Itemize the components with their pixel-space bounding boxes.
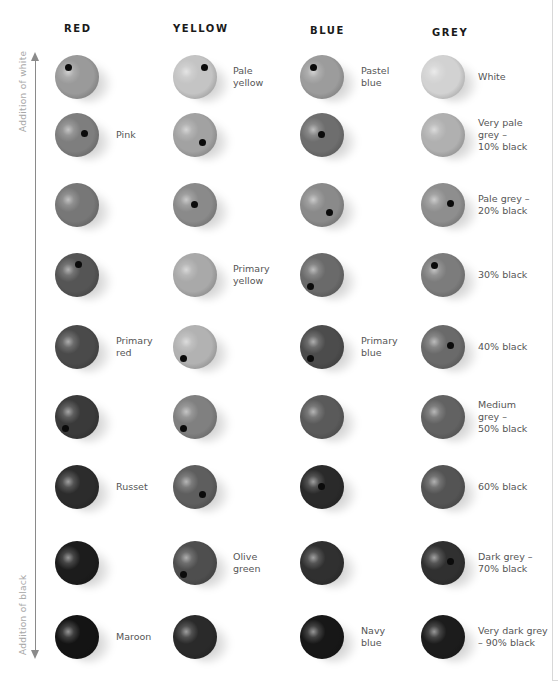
bead-yellow-6 xyxy=(173,395,217,439)
arrow-down-icon xyxy=(31,650,39,659)
bead-sphere xyxy=(173,113,217,157)
bead-label-red-5: Primary red xyxy=(116,335,153,359)
bead-red-6 xyxy=(55,395,99,439)
bead-hole xyxy=(310,64,317,71)
bead-sphere xyxy=(55,465,99,509)
bead-hole xyxy=(447,200,454,207)
bead-label-grey-9: Very dark grey – 90% black xyxy=(478,625,548,649)
bead-blue-2 xyxy=(300,113,344,157)
bead-hole xyxy=(65,64,72,71)
bead-red-8 xyxy=(55,541,99,585)
bead-sphere xyxy=(55,183,99,227)
bead-blue-1 xyxy=(300,55,344,99)
bead-sphere xyxy=(421,465,465,509)
bead-yellow-4 xyxy=(173,253,217,297)
bead-hole xyxy=(180,425,187,432)
bead-label-grey-1: White xyxy=(478,71,506,83)
bead-yellow-1 xyxy=(173,55,217,99)
bead-hole xyxy=(447,342,454,349)
bead-sphere xyxy=(421,395,465,439)
bead-sphere xyxy=(300,55,344,99)
bead-sphere xyxy=(55,55,99,99)
bead-sphere xyxy=(55,615,99,659)
bead-hole xyxy=(199,491,206,498)
bead-sphere xyxy=(421,253,465,297)
bead-yellow-5 xyxy=(173,325,217,369)
bead-sphere xyxy=(173,325,217,369)
bead-sphere xyxy=(300,395,344,439)
bead-sphere xyxy=(421,183,465,227)
bead-label-yellow-4: Primary yellow xyxy=(233,263,270,287)
bead-label-grey-2: Very pale grey – 10% black xyxy=(478,117,527,153)
column-header-yellow: YELLOW xyxy=(173,23,229,34)
bead-label-grey-8: Dark grey – 70% black xyxy=(478,551,533,575)
bead-sphere xyxy=(173,253,217,297)
bead-red-9 xyxy=(55,615,99,659)
bead-red-7 xyxy=(55,465,99,509)
bead-hole xyxy=(431,262,438,269)
bead-hole xyxy=(447,558,454,565)
bead-red-5 xyxy=(55,325,99,369)
bead-sphere xyxy=(421,541,465,585)
bead-yellow-8 xyxy=(173,541,217,585)
bead-label-grey-7: 60% black xyxy=(478,481,527,493)
bead-label-blue-5: Primary blue xyxy=(361,335,398,359)
bead-sphere xyxy=(300,183,344,227)
bead-hole xyxy=(307,355,314,362)
bead-label-grey-6: Medium grey – 50% black xyxy=(478,399,527,435)
bead-hole xyxy=(62,425,69,432)
bead-red-4 xyxy=(55,253,99,297)
vertical-axis-line xyxy=(35,58,36,654)
bead-grey-7 xyxy=(421,465,465,509)
bead-label-yellow-1: Pale yellow xyxy=(233,65,263,89)
bead-sphere xyxy=(421,113,465,157)
bead-sphere xyxy=(300,325,344,369)
bead-yellow-9 xyxy=(173,615,217,659)
bead-sphere xyxy=(173,615,217,659)
bead-sphere xyxy=(300,615,344,659)
bead-sphere xyxy=(55,113,99,157)
bead-sphere xyxy=(421,55,465,99)
bead-label-red-7: Russet xyxy=(116,481,148,493)
bead-hole xyxy=(191,201,198,208)
bead-grey-5 xyxy=(421,325,465,369)
bead-red-2 xyxy=(55,113,99,157)
page-edge-corner xyxy=(552,680,558,681)
bead-yellow-7 xyxy=(173,465,217,509)
bead-grey-1 xyxy=(421,55,465,99)
bead-blue-4 xyxy=(300,253,344,297)
axis-label-addition-of-black: Addition of black xyxy=(18,574,28,655)
bead-blue-5 xyxy=(300,325,344,369)
bead-hole xyxy=(180,355,187,362)
bead-label-yellow-8: Olive green xyxy=(233,551,260,575)
bead-label-grey-3: Pale grey – 20% black xyxy=(478,193,530,217)
column-header-red: RED xyxy=(64,23,92,34)
bead-label-red-9: Maroon xyxy=(116,631,151,643)
bead-label-grey-4: 30% black xyxy=(478,269,527,281)
bead-label-blue-9: Navy blue xyxy=(361,625,385,649)
bead-hole xyxy=(201,64,208,71)
bead-sphere xyxy=(55,541,99,585)
bead-sphere xyxy=(173,465,217,509)
bead-red-3 xyxy=(55,183,99,227)
bead-sphere xyxy=(173,55,217,99)
bead-grey-2 xyxy=(421,113,465,157)
page-edge-line xyxy=(552,0,553,680)
bead-blue-9 xyxy=(300,615,344,659)
column-header-blue: BLUE xyxy=(310,25,345,36)
bead-hole xyxy=(326,209,333,216)
bead-red-1 xyxy=(55,55,99,99)
bead-yellow-2 xyxy=(173,113,217,157)
bead-grey-6 xyxy=(421,395,465,439)
bead-blue-7 xyxy=(300,465,344,509)
bead-sphere xyxy=(300,541,344,585)
bead-grey-4 xyxy=(421,253,465,297)
bead-sphere xyxy=(421,615,465,659)
bead-hole xyxy=(180,571,187,578)
bead-sphere xyxy=(421,325,465,369)
bead-sphere xyxy=(55,253,99,297)
bead-label-grey-5: 40% black xyxy=(478,341,527,353)
bead-sphere xyxy=(55,325,99,369)
bead-label-red-2: Pink xyxy=(116,129,136,141)
axis-label-addition-of-white: Addition of white xyxy=(18,51,28,132)
